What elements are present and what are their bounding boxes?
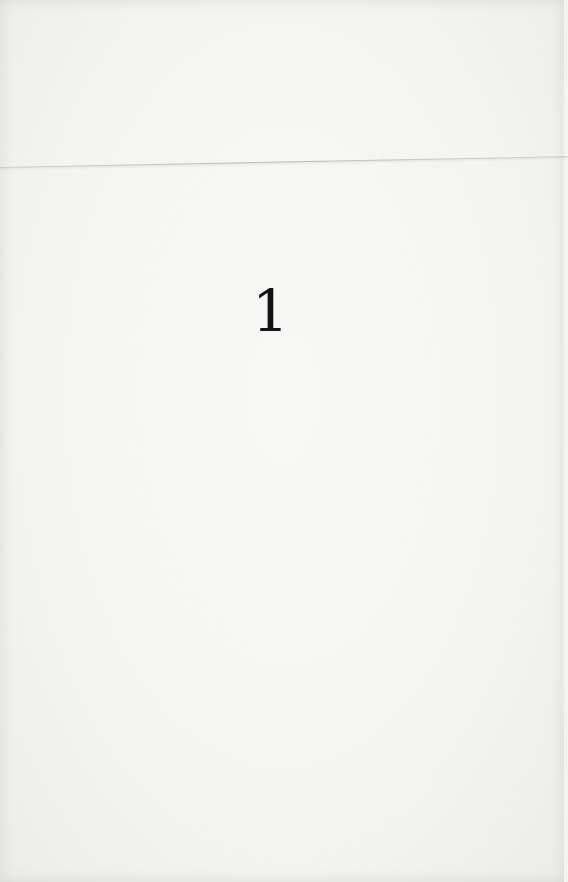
fold-shadow xyxy=(0,157,568,171)
fold-line xyxy=(0,156,568,168)
page-number: 1 xyxy=(252,278,288,344)
